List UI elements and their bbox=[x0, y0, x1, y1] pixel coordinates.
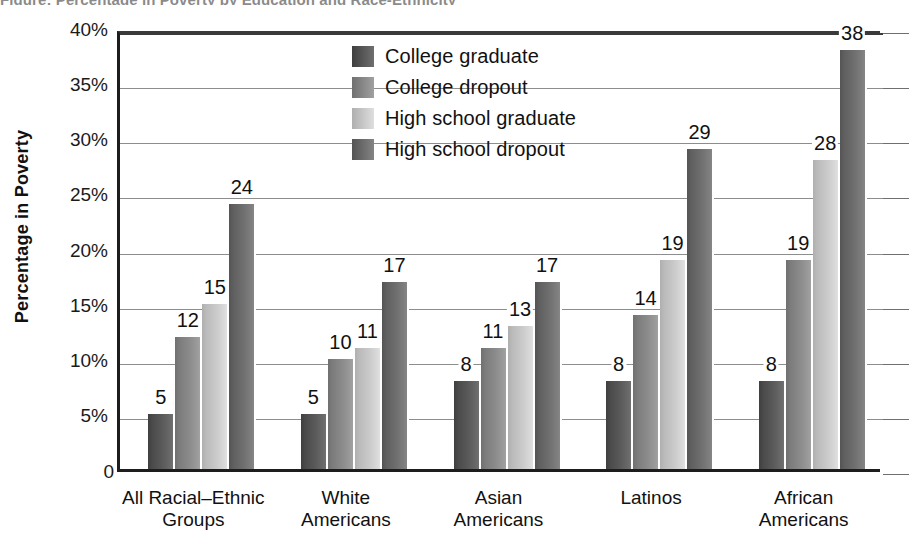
bar: 10 bbox=[328, 359, 355, 469]
x-axis-category-label: Latinos bbox=[575, 487, 728, 509]
y-axis-tick-mark bbox=[883, 309, 909, 310]
bar: 8 bbox=[759, 381, 786, 469]
bar: 28 bbox=[813, 160, 840, 469]
bar-value-label: 19 bbox=[659, 233, 685, 253]
bar: 17 bbox=[535, 282, 562, 469]
bar: 24 bbox=[229, 204, 256, 469]
bar: 15 bbox=[202, 304, 229, 469]
legend-color-swatch bbox=[352, 46, 374, 67]
legend-color-swatch bbox=[352, 139, 374, 160]
bar-value-label: 28 bbox=[812, 133, 838, 153]
bar: 12 bbox=[175, 337, 202, 469]
bar-value-label: 15 bbox=[202, 277, 228, 297]
bar: 11 bbox=[355, 348, 382, 469]
bar-value-label: 13 bbox=[507, 299, 533, 319]
legend-item: High school dropout bbox=[352, 137, 576, 161]
bar-group: 8141929 bbox=[606, 28, 714, 469]
legend-item: College dropout bbox=[352, 75, 576, 99]
bar: 19 bbox=[660, 260, 687, 469]
x-axis-category-label: Asian Americans bbox=[422, 487, 575, 531]
y-axis-tick-mark bbox=[883, 88, 909, 89]
y-axis-tick-mark bbox=[883, 364, 909, 365]
bar-value-label: 14 bbox=[632, 288, 658, 308]
y-axis-tick-label: 15% bbox=[40, 295, 108, 317]
x-axis-category-label: All Racial–Ethnic Groups bbox=[117, 487, 270, 531]
bar-value-label: 8 bbox=[764, 354, 779, 374]
y-axis-tick-label: 10% bbox=[40, 350, 108, 372]
y-axis-tick-label: 35% bbox=[40, 74, 108, 96]
bar: 38 bbox=[840, 50, 867, 469]
legend-item-label: High school dropout bbox=[385, 138, 565, 161]
legend-item-label: College graduate bbox=[385, 45, 539, 68]
bar-value-label: 11 bbox=[355, 321, 380, 341]
y-axis-zero-label: 0 bbox=[92, 461, 114, 483]
y-axis-tick-label: 20% bbox=[40, 240, 108, 262]
bar-value-label: 11 bbox=[481, 321, 506, 341]
bar: 8 bbox=[606, 381, 633, 469]
y-axis-tick-label: 25% bbox=[40, 184, 108, 206]
bar-value-label: 38 bbox=[839, 23, 865, 43]
bar: 5 bbox=[148, 414, 175, 469]
y-axis-title: Percentage in Poverty bbox=[12, 67, 33, 387]
bar-value-label: 17 bbox=[381, 255, 407, 275]
legend-item-label: College dropout bbox=[385, 76, 528, 99]
x-axis-category-label: White Americans bbox=[270, 487, 423, 531]
bar-value-label: 17 bbox=[534, 255, 560, 275]
bar-value-label: 8 bbox=[611, 354, 626, 374]
bar: 17 bbox=[382, 282, 409, 469]
legend-color-swatch bbox=[352, 108, 374, 129]
chart-legend: College graduateCollege dropoutHigh scho… bbox=[352, 44, 576, 161]
x-axis-category-label: African Americans bbox=[727, 487, 880, 531]
bar-value-label: 10 bbox=[327, 332, 353, 352]
bar-group: 8192838 bbox=[759, 28, 867, 469]
legend-item: High school graduate bbox=[352, 106, 576, 130]
bar: 5 bbox=[301, 414, 328, 469]
poverty-by-education-bar-chart: Percentage in Poverty 5%10%15%20%25%30%3… bbox=[0, 0, 917, 556]
y-axis-tick-label: 30% bbox=[40, 129, 108, 151]
bar: 14 bbox=[633, 315, 660, 469]
y-axis-tick-mark bbox=[883, 474, 909, 475]
bar-value-label: 5 bbox=[306, 387, 321, 407]
bar: 8 bbox=[454, 381, 481, 469]
y-axis-tick-label: 5% bbox=[40, 405, 108, 427]
bar-value-label: 29 bbox=[686, 122, 712, 142]
legend-item: College graduate bbox=[352, 44, 576, 68]
y-axis-tick-mark bbox=[883, 198, 909, 199]
y-axis-tick-mark bbox=[883, 419, 909, 420]
y-axis-tick-mark bbox=[883, 33, 909, 34]
y-axis-tick-mark bbox=[883, 143, 909, 144]
bar: 11 bbox=[481, 348, 508, 469]
bar-value-label: 19 bbox=[785, 233, 811, 253]
y-axis-tick-label: 40% bbox=[40, 19, 108, 41]
bar: 29 bbox=[687, 149, 714, 469]
legend-color-swatch bbox=[352, 77, 374, 98]
bar-value-label: 5 bbox=[153, 387, 168, 407]
bar-value-label: 24 bbox=[229, 177, 255, 197]
y-axis-tick-mark bbox=[883, 254, 909, 255]
bar-group: 5121524 bbox=[148, 28, 256, 469]
bar-value-label: 12 bbox=[175, 310, 201, 330]
bar-value-label: 8 bbox=[458, 354, 473, 374]
bar: 19 bbox=[786, 260, 813, 469]
bar: 13 bbox=[508, 326, 535, 469]
legend-item-label: High school graduate bbox=[385, 107, 576, 130]
